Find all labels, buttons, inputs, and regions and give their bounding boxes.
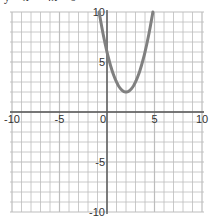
chart-title-cropped: y = x² − 4x + 6 [4,0,76,4]
svg-text:10: 10 [196,113,208,125]
svg-text:-10: -10 [89,206,105,218]
svg-text:5: 5 [99,56,105,68]
coordinate-plane: y = x² − 4x + 6 -10-50510105-5-10 [0,0,215,223]
svg-text:-5: -5 [95,156,105,168]
svg-text:-10: -10 [4,113,20,125]
svg-text:0: 0 [100,113,106,125]
axes [10,10,204,214]
svg-text:-5: -5 [55,113,65,125]
svg-text:5: 5 [151,113,157,125]
